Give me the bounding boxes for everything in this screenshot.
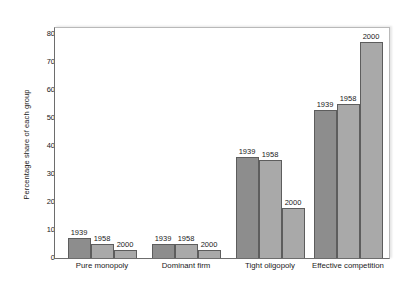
bar <box>282 208 305 258</box>
bar <box>114 250 137 258</box>
y-axis: 01020304050607080 <box>0 0 62 287</box>
bar-slot: 1958 <box>91 28 114 258</box>
bar <box>236 157 259 258</box>
bar-slot: 1939 <box>152 28 175 258</box>
bar-chart-figure: Percentage share of each group 010203040… <box>0 0 400 287</box>
bar-group: 193919582000 <box>145 28 227 258</box>
bar-slot: 2000 <box>282 28 305 258</box>
bar <box>68 238 91 258</box>
bar-value-label: 1958 <box>261 150 279 159</box>
bar <box>337 104 360 258</box>
bar-slot: 1958 <box>259 28 282 258</box>
x-axis-category-label: Dominant firm <box>145 261 227 270</box>
bar-value-label: 1958 <box>339 94 357 103</box>
bar-value-label: 2000 <box>284 198 302 207</box>
bar-slot: 1939 <box>314 28 337 258</box>
bar <box>314 110 337 258</box>
bar-value-label: 1958 <box>93 234 111 243</box>
bar-group: 193919582000 <box>61 28 143 258</box>
bar-value-label: 1939 <box>238 147 256 156</box>
bar <box>91 244 114 258</box>
bar <box>259 160 282 258</box>
bar <box>175 244 198 258</box>
x-axis-category-label: Tight oligopoly <box>229 261 311 270</box>
bar-value-label: 2000 <box>362 32 380 41</box>
bar <box>360 42 383 258</box>
bar <box>152 244 175 258</box>
bar-slot: 2000 <box>360 28 383 258</box>
x-axis-category-label: Pure monopoly <box>61 261 143 270</box>
bar-value-label: 1939 <box>70 228 88 237</box>
bar-group: 193919582000 <box>307 28 389 258</box>
bar-slot: 1939 <box>236 28 259 258</box>
bar-slot: 2000 <box>114 28 137 258</box>
x-axis-category-label: Effective competition <box>307 261 389 270</box>
bar-slot: 1958 <box>175 28 198 258</box>
bar-value-label: 2000 <box>116 240 134 249</box>
bar-value-label: 1939 <box>316 100 334 109</box>
bar <box>198 250 221 258</box>
bar-value-label: 1939 <box>154 234 172 243</box>
plot-area: 1939195820001939195820001939195820001939… <box>55 28 389 258</box>
bar-value-label: 1958 <box>177 234 195 243</box>
bar-group: 193919582000 <box>229 28 311 258</box>
bar-slot: 1958 <box>337 28 360 258</box>
x-axis: Pure monopolyDominant firmTight oligopol… <box>55 261 389 279</box>
bar-value-label: 2000 <box>200 240 218 249</box>
bar-slot: 2000 <box>198 28 221 258</box>
bar-slot: 1939 <box>68 28 91 258</box>
